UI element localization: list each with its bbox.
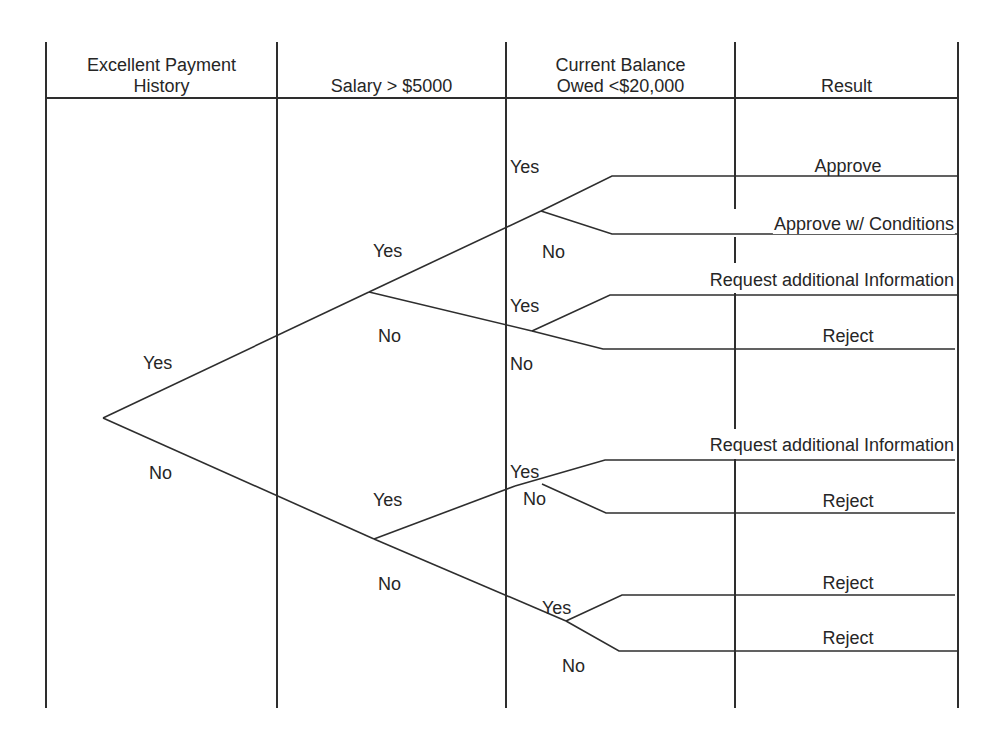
- header-line-1: Current Balance: [506, 55, 735, 76]
- result-label: Approve w/ Conditions: [773, 214, 955, 234]
- branch-balance-4-no: [566, 621, 958, 651]
- header-line-2: Result: [735, 76, 958, 97]
- branch-balance-1-yes: [541, 176, 958, 211]
- branch-salary-bottom-no: [374, 539, 566, 621]
- label-root-yes: Yes: [143, 353, 172, 373]
- label-balance-4-no: No: [562, 656, 585, 676]
- header-salary: Salary > $5000: [277, 55, 506, 97]
- branch-balance-2-no: [532, 331, 955, 349]
- header-line-1: Excellent Payment: [46, 55, 277, 76]
- label-balance-2-no: No: [510, 354, 533, 374]
- header-result: Result: [735, 55, 958, 97]
- result-label: Reject: [822, 491, 873, 511]
- branch-balance-2-yes: [532, 295, 958, 331]
- label-balance-3-yes: Yes: [510, 462, 539, 482]
- header-line-2: Salary > $5000: [277, 76, 506, 97]
- label-salary-top-yes: Yes: [373, 241, 402, 261]
- label-salary-bottom-yes: Yes: [373, 490, 402, 510]
- result-label: Request additional Information: [709, 435, 955, 455]
- label-root-no: No: [149, 463, 172, 483]
- result-label: Reject: [822, 628, 873, 648]
- decision-tree-diagram: Excellent Payment History Salary > $5000…: [0, 0, 1007, 745]
- label-balance-1-no: No: [542, 242, 565, 262]
- label-balance-1-yes: Yes: [510, 157, 539, 177]
- result-label: Request additional Information: [709, 270, 955, 290]
- label-balance-4-yes: Yes: [542, 598, 571, 618]
- branch-balance-3-no: [542, 484, 955, 513]
- label-balance-2-yes: Yes: [510, 296, 539, 316]
- result-label: Reject: [822, 573, 873, 593]
- header-current-balance: Current Balance Owed <$20,000: [506, 55, 735, 97]
- label-salary-bottom-no: No: [378, 574, 401, 594]
- header-line-1: [735, 55, 958, 76]
- header-line-2: History: [46, 76, 277, 97]
- result-label: Reject: [822, 326, 873, 346]
- label-balance-3-no: No: [523, 489, 546, 509]
- header-line-2: Owed <$20,000: [506, 76, 735, 97]
- branch-root-no: [103, 418, 374, 539]
- result-label: Approve: [814, 156, 881, 176]
- label-salary-top-no: No: [378, 326, 401, 346]
- branch-balance-4-yes: [566, 595, 955, 621]
- header-payment-history: Excellent Payment History: [46, 55, 277, 97]
- header-line-1: [277, 55, 506, 76]
